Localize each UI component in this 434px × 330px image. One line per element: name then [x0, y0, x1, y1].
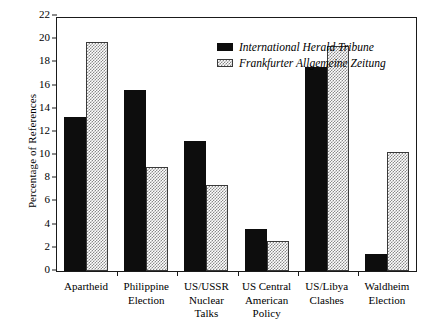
x-axis-category-label: US Central American Policy — [237, 280, 297, 321]
x-axis-category-label: Philippine Election — [116, 280, 176, 307]
legend-swatch-solid-icon — [217, 43, 233, 51]
chart-legend: International Herald Tribune Frankfurter… — [217, 39, 386, 71]
x-axis-tick-mark — [117, 271, 118, 276]
bar-chart-figure: Percentage of References 024681012141618… — [0, 0, 434, 330]
y-axis-tick-label: 16 — [26, 76, 50, 91]
y-axis-tick-label: 8 — [26, 169, 50, 184]
y-axis-tick-mark — [52, 15, 57, 16]
bar-iht — [305, 67, 327, 271]
y-axis-tick: 14 — [21, 107, 57, 108]
bar-faz — [206, 185, 228, 271]
bar-iht — [365, 254, 387, 271]
bar-iht — [124, 90, 146, 271]
bar-iht — [245, 229, 267, 271]
y-axis-tick-mark — [52, 246, 57, 247]
y-axis-tick: 16 — [21, 84, 57, 85]
y-axis-tick-label: 4 — [26, 215, 50, 230]
y-axis-tick-mark — [52, 107, 57, 108]
y-axis-tick-label: 20 — [26, 30, 50, 45]
bar-faz — [267, 241, 289, 271]
legend-label: Frankfurter Allgemeine Zeitung — [239, 57, 386, 69]
bar-iht — [64, 117, 86, 271]
x-axis-tick-mark — [298, 271, 299, 276]
bar-faz — [387, 152, 409, 271]
y-axis-tick-mark — [52, 223, 57, 224]
bar-faz — [327, 46, 349, 271]
y-axis-tick: 4 — [21, 223, 57, 224]
legend-label: International Herald Tribune — [239, 41, 374, 53]
y-axis-tick: 20 — [21, 38, 57, 39]
legend-swatch-hatch-icon — [217, 59, 233, 67]
y-axis-tick-mark — [52, 38, 57, 39]
x-axis-tick-mark — [358, 271, 359, 276]
x-axis-category-label: US/Libya Clashes — [297, 280, 357, 307]
y-axis-tick: 12 — [21, 130, 57, 131]
plot-area: 0246810121416182022 International Herald… — [56, 17, 417, 272]
y-axis-tick-label: 14 — [26, 99, 50, 114]
y-axis-tick: 10 — [21, 154, 57, 155]
y-axis-tick-mark — [52, 130, 57, 131]
x-axis-tick-mark — [238, 271, 239, 276]
legend-item: Frankfurter Allgemeine Zeitung — [217, 55, 386, 70]
y-axis-tick: 0 — [21, 270, 57, 271]
x-axis-category-label: Apartheid — [56, 280, 116, 294]
y-axis-tick: 2 — [21, 246, 57, 247]
bar-faz — [146, 167, 168, 271]
x-axis-tick-mark — [177, 271, 178, 276]
x-axis-category-label: Waldheim Election — [357, 280, 417, 307]
y-axis-tick-mark — [52, 177, 57, 178]
bar-iht — [184, 141, 206, 271]
y-axis-tick-label: 2 — [26, 238, 50, 253]
legend-item: International Herald Tribune — [217, 39, 386, 54]
y-axis-tick-label: 18 — [26, 53, 50, 68]
y-axis-tick-label: 6 — [26, 192, 50, 207]
y-axis-tick-label: 22 — [26, 7, 50, 22]
y-axis-tick-label: 0 — [26, 262, 50, 277]
y-axis-tick: 6 — [21, 200, 57, 201]
y-axis-tick: 22 — [21, 15, 57, 16]
y-axis-tick-label: 10 — [26, 146, 50, 161]
y-axis-tick-mark — [52, 154, 57, 155]
y-axis-tick-label: 12 — [26, 122, 50, 137]
y-axis-tick: 8 — [21, 177, 57, 178]
y-axis-tick-mark — [52, 61, 57, 62]
y-axis-tick-mark — [52, 200, 57, 201]
x-axis-category-label: US/USSR Nuclear Talks — [176, 280, 236, 321]
y-axis-tick-mark — [52, 270, 57, 271]
y-axis-tick-mark — [52, 84, 57, 85]
bar-faz — [86, 42, 108, 272]
y-axis-tick: 18 — [21, 61, 57, 62]
